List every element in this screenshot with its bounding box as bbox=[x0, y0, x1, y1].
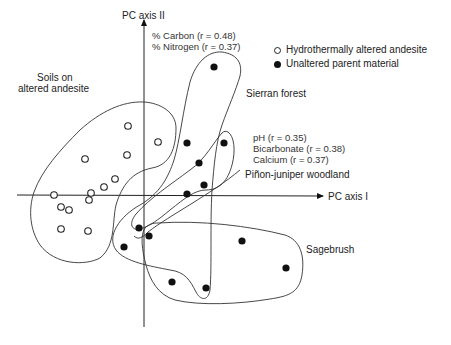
pc-axis-1-line bbox=[17, 195, 323, 196]
group-label-pinon: Piñon-juniper woodland bbox=[245, 169, 350, 180]
group-label-sagebrush: Sagebrush bbox=[306, 244, 354, 255]
series-altered-andesite bbox=[51, 123, 162, 235]
group-label-altered-1: Soils on bbox=[37, 72, 73, 83]
loading-nitrogen: % Nitrogen (r = 0.37) bbox=[152, 41, 240, 52]
legend-item-unaltered: Unaltered parent material bbox=[274, 58, 399, 70]
hull-altered-andesite bbox=[31, 102, 176, 263]
loading-calcium: Calcium (r = 0.37) bbox=[253, 154, 329, 165]
legend-label: Unaltered parent material bbox=[286, 58, 399, 70]
loading-bicarbonate: Bicarbonate (r = 0.38) bbox=[253, 143, 345, 154]
legend-label: Hydrothermally altered andesite bbox=[286, 44, 427, 56]
x-axis-label: PC axis I bbox=[328, 191, 368, 202]
hull-pinon-tail bbox=[134, 170, 240, 238]
filled-circle-icon bbox=[274, 61, 281, 68]
hull-sierran-forest bbox=[113, 52, 241, 299]
group-label-sierran: Sierran forest bbox=[246, 88, 306, 99]
hull-sagebrush bbox=[142, 222, 303, 303]
legend-item-altered: Hydrothermally altered andesite bbox=[274, 44, 427, 56]
group-label-altered-2: altered andesite bbox=[18, 83, 89, 94]
hull-pinon-juniper bbox=[132, 131, 234, 229]
loading-carbon: % Carbon (r = 0.48) bbox=[152, 30, 236, 41]
loading-ph: pH (r = 0.35) bbox=[253, 132, 307, 143]
open-circle-icon bbox=[274, 47, 281, 54]
y-axis-label: PC axis II bbox=[122, 10, 165, 21]
